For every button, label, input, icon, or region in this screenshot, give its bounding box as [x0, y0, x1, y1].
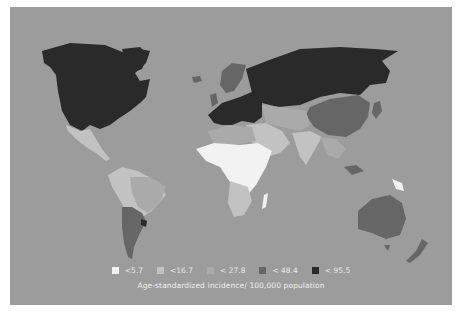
region-papua-new-guinea	[392, 179, 404, 191]
region-new-zealand	[406, 239, 428, 263]
legend-item-class-2: <16.7	[157, 266, 193, 275]
legend-swatch-icon	[112, 267, 119, 274]
region-iceland	[192, 76, 202, 83]
region-argentina-chile	[122, 207, 146, 259]
legend-label: < 27.8	[220, 266, 245, 275]
world-choropleth-map	[10, 7, 452, 305]
legend-label: <5.7	[125, 266, 143, 275]
legend-label: < 48.4	[272, 266, 297, 275]
legend-caption: Age-standardized incidence/ 100,000 popu…	[10, 281, 452, 290]
legend-label: < 95.5	[325, 266, 350, 275]
region-indonesia	[344, 165, 364, 175]
region-madagascar	[262, 193, 268, 209]
region-japan	[372, 101, 382, 119]
region-central-america	[66, 125, 110, 161]
map-legend: <5.7 <16.7 < 27.8 < 48.4 < 95.5	[10, 266, 452, 275]
legend-swatch-icon	[312, 267, 319, 274]
region-india	[292, 131, 322, 165]
legend-item-class-1: <5.7	[112, 266, 143, 275]
legend-item-class-5: < 95.5	[312, 266, 350, 275]
legend-item-class-3: < 27.8	[207, 266, 245, 275]
region-scandinavia	[220, 63, 246, 93]
region-russia	[246, 47, 398, 107]
map-frame: <5.7 <16.7 < 27.8 < 48.4 < 95.5 Age-stan…	[10, 7, 452, 305]
legend-item-class-4: < 48.4	[259, 266, 297, 275]
region-north-africa	[208, 125, 256, 145]
region-uk	[210, 93, 218, 107]
region-southeast-asia	[320, 137, 346, 159]
region-tasmania	[384, 245, 390, 251]
legend-swatch-icon	[207, 267, 214, 274]
legend-swatch-icon	[157, 267, 164, 274]
region-china	[306, 95, 370, 137]
legend-label: <16.7	[170, 266, 193, 275]
region-australia	[358, 195, 406, 239]
legend-swatch-icon	[259, 267, 266, 274]
